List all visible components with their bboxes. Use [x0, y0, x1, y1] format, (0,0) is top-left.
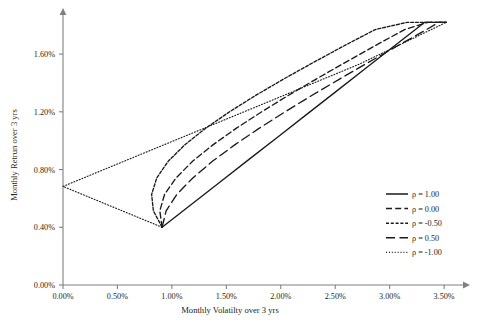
- x-tick-label: 1.50%: [216, 292, 237, 301]
- x-tick-label: 3.50%: [434, 292, 455, 301]
- x-tick-label: 2.50%: [325, 292, 346, 301]
- legend-item-label: ρ = 1.00: [412, 190, 439, 199]
- x-tick-label: 2.00%: [270, 292, 291, 301]
- legend-item-label: ρ = 0.50: [412, 234, 439, 243]
- chart-background: [0, 0, 480, 331]
- y-tick-label: 0.00%: [34, 281, 55, 290]
- legend-item-label: ρ = -0.50: [412, 219, 442, 228]
- efficient-frontier-chart: 0.00%0.40%0.80%1.20%1.60% 0.00%0.50%1.00…: [0, 0, 480, 331]
- legend-item-label: ρ = 0.00: [412, 205, 439, 214]
- x-tick-label: 3.00%: [379, 292, 400, 301]
- x-axis-title: Monthly Volatilty over 3 yrs: [181, 305, 279, 315]
- chart-container: 0.00%0.40%0.80%1.20%1.60% 0.00%0.50%1.00…: [0, 0, 480, 331]
- x-tick-label: 0.00%: [52, 292, 73, 301]
- y-tick-label: 1.20%: [34, 108, 55, 117]
- y-tick-label: 0.80%: [34, 166, 55, 175]
- x-tick-label: 0.50%: [107, 292, 128, 301]
- y-tick-label: 1.60%: [34, 50, 55, 59]
- legend-item-label: ρ = -1.00: [412, 248, 442, 257]
- y-axis-title: Monthly Retrun over 3 yrs: [9, 109, 19, 201]
- y-tick-label: 0.40%: [34, 223, 55, 232]
- x-tick-label: 1.00%: [161, 292, 182, 301]
